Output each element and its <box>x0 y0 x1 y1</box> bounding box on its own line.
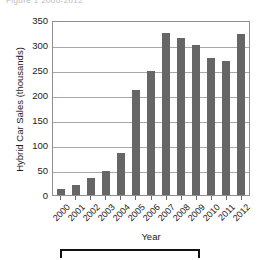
bar[interactable] <box>177 38 185 196</box>
y-axis-tick-labels: 050100150200250300350 <box>22 21 48 196</box>
plot-area <box>52 21 250 196</box>
bar[interactable] <box>72 185 80 196</box>
y-axis-tick-label: 350 <box>22 16 48 26</box>
bar[interactable] <box>222 61 230 195</box>
y-axis-tick-label: 100 <box>22 141 48 151</box>
bar[interactable] <box>207 58 215 195</box>
bar-slot[interactable] <box>129 22 144 195</box>
y-axis-tick-label: 300 <box>22 41 48 51</box>
bar[interactable] <box>132 90 140 195</box>
bar[interactable] <box>102 171 110 195</box>
bar-slot[interactable] <box>233 22 248 195</box>
bar[interactable] <box>87 178 95 196</box>
y-axis-tick-label: 200 <box>22 91 48 101</box>
bar-slot[interactable] <box>69 22 84 195</box>
x-axis-tick-label: 2012 <box>231 202 252 223</box>
bar[interactable] <box>117 153 125 196</box>
bar-slot[interactable] <box>173 22 188 195</box>
y-axis-tick-label: 0 <box>22 191 48 201</box>
bar[interactable] <box>192 45 200 195</box>
y-axis-tick-label: 250 <box>22 66 48 76</box>
bar-slot[interactable] <box>158 22 173 195</box>
bar-slot[interactable] <box>114 22 129 195</box>
bar-slot[interactable] <box>99 22 114 195</box>
bar-slot[interactable] <box>84 22 99 195</box>
bar-slot[interactable] <box>218 22 233 195</box>
x-axis-tick-labels: 2000200120022003200420052006200720082009… <box>52 200 250 230</box>
bars-container <box>53 22 249 195</box>
bar-slot[interactable] <box>188 22 203 195</box>
y-axis-tick-label: 150 <box>22 116 48 126</box>
bottom-rule <box>60 249 200 258</box>
bar[interactable] <box>162 33 170 196</box>
bar-slot[interactable] <box>54 22 69 195</box>
bar-slot[interactable] <box>203 22 218 195</box>
x-label-slot: 2012 <box>234 200 249 230</box>
bar[interactable] <box>237 34 245 195</box>
bar-slot[interactable] <box>144 22 159 195</box>
x-axis-title: Year <box>52 231 250 242</box>
bar[interactable] <box>57 189 65 195</box>
bar-chart-figure: Hybrid Car Sales (thousands) 05010015020… <box>0 0 261 260</box>
y-axis-tick-label: 50 <box>22 166 48 176</box>
bar[interactable] <box>147 71 155 195</box>
